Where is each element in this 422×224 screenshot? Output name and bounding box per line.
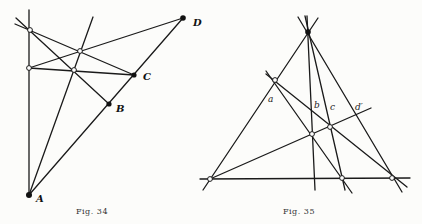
label-d-prime: d′: [355, 102, 363, 112]
line-P2-to-C: [29, 68, 134, 75]
point-Q1: [78, 49, 83, 54]
point-P1: [28, 28, 33, 33]
diagram-canvas: A B C D Fig. 34 a b c d′ Fig. 35: [0, 0, 422, 224]
figure-35: a b c d′ Fig. 35: [200, 16, 410, 216]
label-A: A: [35, 193, 44, 204]
point-BM: [340, 176, 345, 181]
label-b: b: [314, 100, 320, 110]
point-L: [273, 78, 278, 83]
label-c: c: [330, 102, 335, 112]
point-BR: [390, 176, 395, 181]
point-C: [131, 72, 136, 77]
point-BL: [208, 177, 213, 182]
label-B: B: [115, 103, 124, 114]
label-a: a: [268, 94, 273, 104]
label-D: D: [192, 17, 202, 28]
point-D: [180, 15, 186, 21]
line-baseline: [200, 178, 410, 179]
caption-fig-34: Fig. 34: [76, 207, 108, 216]
point-V-apex: [305, 29, 311, 35]
caption-fig-35: Fig. 35: [283, 207, 315, 216]
line-P2-to-D: [29, 18, 183, 68]
line-A-to-D: [29, 18, 183, 195]
point-P2: [27, 66, 32, 71]
point-A: [26, 192, 32, 198]
point-M1: [310, 132, 315, 137]
figure-34: A B C D Fig. 34: [15, 10, 202, 216]
point-Q2: [72, 68, 77, 73]
point-M2: [328, 125, 333, 130]
label-C: C: [143, 71, 151, 82]
line-a-left-side: [203, 18, 318, 190]
point-B: [106, 101, 111, 106]
